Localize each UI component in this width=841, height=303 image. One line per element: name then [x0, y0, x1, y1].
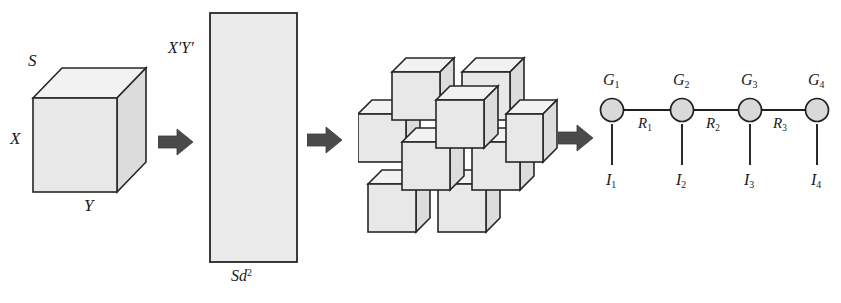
stage-input-tensor: S X Y [0, 0, 160, 230]
arrow-right-icon [158, 128, 194, 156]
physical-leg-label-I2: I2 [676, 172, 686, 188]
cluster-cube [436, 86, 498, 148]
arrow-right-shape [158, 129, 193, 155]
core-node-label-G3: G3 [741, 72, 758, 88]
arrow-right-icon [558, 124, 594, 152]
arrow-2 [307, 126, 343, 154]
tensor-cube-graphic [0, 0, 160, 230]
matrix-cols-label: Sd2 [231, 268, 252, 284]
core-node-G2 [671, 99, 694, 122]
physical-leg-label-I1: I1 [606, 172, 616, 188]
bond-label-R2: R2 [706, 116, 720, 131]
stage-cube-cluster [358, 24, 558, 234]
physical-leg-label-I4: I4 [811, 172, 821, 188]
cube-front-face [33, 98, 117, 192]
physical-leg-label-I3: I3 [744, 172, 754, 188]
bond-label-R1: R1 [638, 116, 652, 131]
arrow-3 [558, 124, 594, 152]
matrix-rows-label: X′Y′ [168, 40, 194, 56]
core-node-label-G4: G4 [808, 72, 825, 88]
cube-width-label: Y [84, 197, 93, 214]
core-node-label-G2: G2 [673, 72, 690, 88]
matrix-rectangle [210, 13, 297, 262]
core-node-G4 [806, 99, 829, 122]
arrow-right-shape [307, 127, 342, 153]
bond-label-R3: R3 [773, 116, 787, 131]
figure-canvas: S X Y X′Y′ Sd2 [0, 0, 841, 303]
cube-depth-label: S [28, 52, 37, 69]
stage-tensor-network: G1 G2 G3 G4 R1 R2 R3 I1 I2 I3 I4 [596, 50, 841, 210]
core-node-G1 [601, 99, 624, 122]
arrow-right-shape [558, 125, 593, 151]
core-node-G3 [739, 99, 762, 122]
cluster-cube [506, 100, 557, 162]
core-node-label-G1: G1 [603, 72, 620, 88]
cube-height-label: X [10, 130, 20, 147]
cube-cluster-graphic [358, 24, 558, 234]
arrow-1 [158, 128, 194, 156]
arrow-right-icon [307, 126, 343, 154]
